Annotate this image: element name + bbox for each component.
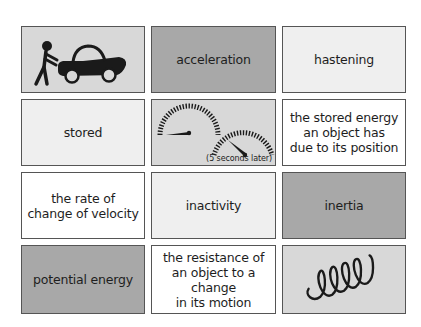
card-label: the rate of change of velocity bbox=[23, 191, 142, 221]
card-label: acceleration bbox=[172, 52, 255, 67]
card-spring[interactable] bbox=[282, 245, 406, 314]
gauge-caption: (5 seconds later) bbox=[206, 154, 272, 163]
vocabulary-card-grid: acceleration hastening stored (5 seconds… bbox=[21, 26, 406, 314]
person-pushing-car-icon bbox=[23, 29, 143, 91]
card-hastening[interactable]: hastening bbox=[282, 26, 406, 93]
coiled-spring-icon bbox=[283, 245, 405, 314]
card-speedometers[interactable]: (5 seconds later) bbox=[151, 99, 276, 166]
card-label: the resistance of an object to a change … bbox=[152, 250, 275, 310]
card-car-push[interactable] bbox=[21, 26, 145, 93]
card-label: stored bbox=[60, 125, 106, 140]
card-potential-energy-definition[interactable]: the stored energy an object has due to i… bbox=[282, 99, 406, 166]
card-acceleration-definition[interactable]: the rate of change of velocity bbox=[21, 172, 145, 239]
card-inactivity[interactable]: inactivity bbox=[151, 172, 276, 239]
card-inertia-definition[interactable]: the resistance of an object to a change … bbox=[151, 245, 276, 314]
card-inertia[interactable]: inertia bbox=[282, 172, 406, 239]
card-label: inertia bbox=[321, 198, 368, 213]
card-label: hastening bbox=[310, 52, 378, 67]
card-potential-energy[interactable]: potential energy bbox=[21, 245, 145, 314]
card-stored[interactable]: stored bbox=[21, 99, 145, 166]
card-acceleration[interactable]: acceleration bbox=[151, 26, 276, 93]
card-label: the stored energy an object has due to i… bbox=[286, 110, 403, 155]
card-label: potential energy bbox=[29, 272, 137, 287]
card-label: inactivity bbox=[182, 198, 245, 213]
